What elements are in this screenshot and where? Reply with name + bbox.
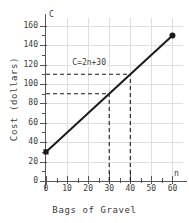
data-point-end-marker bbox=[169, 32, 175, 38]
cost-vs-bags-line-chart: 0204060801001201401600102030405060 C n C… bbox=[0, 0, 189, 223]
data-series-layer bbox=[0, 0, 189, 223]
equation-annotation: C=2n+30 bbox=[71, 59, 107, 67]
data-line bbox=[46, 35, 172, 151]
x-axis-title: Bags of Gravel bbox=[0, 205, 189, 215]
y-axis-title: Cost (dollars) bbox=[9, 29, 19, 169]
data-point-start-marker bbox=[43, 149, 48, 154]
